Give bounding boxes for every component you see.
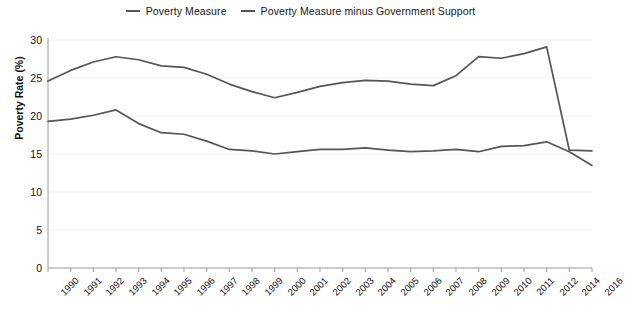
x-axis-tick-label: 2008 — [466, 275, 489, 298]
x-axis-tick-label: 2004 — [376, 275, 399, 298]
x-axis-tick-label: 1990 — [58, 275, 81, 298]
x-axis-tick-label: 1992 — [104, 275, 127, 298]
x-axis-tick-label: 2014 — [580, 275, 603, 298]
x-axis-tick-label: 2011 — [534, 275, 556, 297]
x-axis-tick-label: 2012 — [557, 275, 580, 298]
x-axis-tick-label: 1997 — [217, 275, 240, 298]
x-axis-tick-label: 2009 — [489, 275, 512, 298]
x-axis-tick-label: 2016 — [602, 275, 625, 298]
x-axis-tick-label: 2000 — [285, 275, 308, 298]
x-axis-tick-label: 1993 — [126, 275, 149, 298]
x-axis-tick-label: 2001 — [308, 275, 331, 298]
x-axis-tick-label: 1991 — [81, 275, 104, 298]
x-axis-tick-label: 1996 — [194, 275, 217, 298]
x-axis-tick-labels: 1990199119921993199419951996199719981999… — [0, 273, 601, 314]
x-axis-tick-label: 2007 — [444, 275, 467, 298]
x-axis-tick-label: 2005 — [398, 275, 421, 298]
x-axis-tick-label: 1994 — [149, 275, 172, 298]
x-axis-tick-label: 1995 — [172, 275, 195, 298]
x-axis-tick-label: 1999 — [262, 275, 285, 298]
x-axis-tick-label: 2002 — [330, 275, 353, 298]
x-axis-tick-label: 2006 — [421, 275, 444, 298]
x-axis-tick-label: 1998 — [240, 275, 263, 298]
x-axis-tick-label: 2010 — [512, 275, 535, 298]
x-axis-tick-label: 2003 — [353, 275, 376, 298]
